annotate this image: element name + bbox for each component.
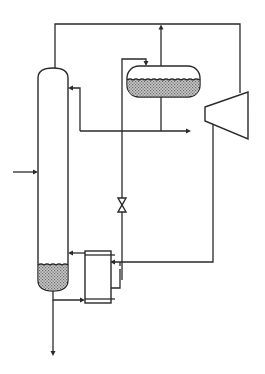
- distillation-column: [38, 68, 68, 291]
- distillate-arrow-icon: [186, 129, 191, 134]
- drum-vapor-line: [159, 25, 164, 67]
- process-flow-diagram: [0, 0, 265, 374]
- drum-inlet-arrow-icon: [144, 61, 149, 66]
- feed-stream: [13, 170, 38, 175]
- reboiler: [85, 251, 120, 303]
- drum-vapor-arrow-icon: [159, 25, 164, 30]
- drum-liquid: [128, 80, 200, 96]
- bottoms-to-reboiler-arrow-icon: [80, 298, 85, 303]
- reflux-arrow-icon: [68, 86, 73, 91]
- boilup-arrow-icon: [68, 251, 73, 256]
- feed-arrow-icon: [33, 170, 38, 175]
- reflux-stream: [68, 86, 80, 132]
- boilup-stream: [68, 251, 85, 256]
- distillate-line: [80, 96, 191, 134]
- compressor: [110, 92, 248, 265]
- bottoms-product-arrow-icon: [51, 351, 56, 356]
- column-bottom-liquid: [39, 265, 68, 290]
- flash-drum: [127, 66, 200, 97]
- throttle-valve: [118, 198, 126, 212]
- bottoms-stream: [51, 291, 86, 356]
